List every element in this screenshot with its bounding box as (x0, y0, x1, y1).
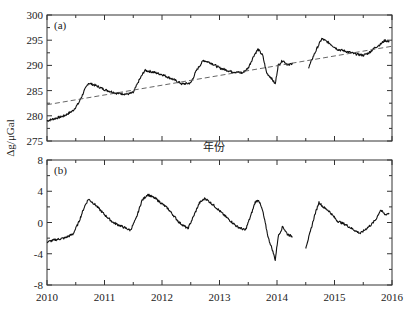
x-tick-label: 2014 (266, 291, 289, 303)
trend-line (47, 46, 392, 104)
x-tick-label: 2010 (36, 291, 59, 303)
panel-b: 2010201120122013201420152016-8-4048(b) (34, 154, 404, 303)
x-tick-label: 2016 (381, 291, 404, 303)
y-tick-label: -4 (34, 248, 44, 260)
y-tick-label: 4 (38, 185, 44, 197)
y-tick-label: 300 (27, 9, 44, 21)
gravity-series-line (47, 194, 293, 260)
y-axis-title: Δg/μGal (4, 119, 16, 156)
y-tick-label: 280 (27, 110, 44, 122)
y-tick-label: 295 (27, 34, 44, 46)
x-axis-title: 年份 (203, 140, 225, 153)
y-tick-label: 8 (38, 154, 44, 166)
x-tick-label: 2011 (94, 291, 116, 303)
y-tick-label: 285 (27, 85, 44, 97)
x-tick-label: 2015 (324, 291, 347, 303)
plot-frame (47, 15, 392, 141)
panel-label: (b) (54, 164, 67, 177)
y-tick-label: 0 (38, 217, 44, 229)
y-tick-label: 290 (27, 59, 44, 71)
panel-label: (a) (54, 19, 67, 32)
gravity-series-line (47, 49, 293, 122)
y-tick-label: 275 (27, 135, 44, 147)
y-tick-label: -8 (34, 279, 44, 291)
gravity-time-series-chart: 275280285290295300(a) 201020112012201320… (0, 0, 408, 326)
x-tick-label: 2013 (209, 291, 232, 303)
panel-a: 275280285290295300(a) (27, 9, 393, 147)
gravity-series-line (306, 202, 389, 249)
x-tick-label: 2012 (151, 291, 173, 303)
